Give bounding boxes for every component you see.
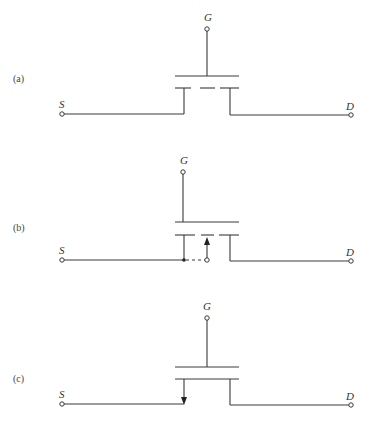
mosfet-symbols-diagram: (a) G S D (b) G S — [0, 0, 369, 421]
gate-label-c: G — [203, 300, 211, 312]
arrow-up-icon — [204, 237, 210, 245]
gate-terminal-b — [181, 170, 185, 174]
gate-label-b: G — [180, 154, 188, 166]
drain-label-b: D — [345, 246, 354, 258]
source-terminal-a — [60, 112, 64, 116]
gate-label-a: G — [204, 11, 212, 23]
panel-label-b: (b) — [13, 222, 25, 234]
panel-c: (c) G S D — [13, 300, 354, 407]
panel-label-c: (c) — [13, 373, 24, 385]
panel-label-a: (a) — [13, 73, 24, 85]
drain-label-c: D — [345, 390, 354, 402]
source-terminal-c — [60, 402, 64, 406]
gate-terminal-a — [205, 27, 209, 31]
source-label-a: S — [59, 98, 65, 110]
junction-dot-b — [182, 258, 186, 262]
drain-label-a: D — [345, 100, 354, 112]
drain-terminal-a — [349, 113, 353, 117]
drain-terminal-c — [349, 403, 353, 407]
panel-a: (a) G S D — [13, 11, 354, 117]
drain-terminal-b — [349, 259, 353, 263]
source-terminal-b — [60, 258, 64, 262]
source-label-b: S — [59, 244, 65, 256]
gate-terminal-c — [205, 316, 209, 320]
panel-b: (b) G S D — [13, 154, 354, 263]
source-label-c: S — [59, 388, 65, 400]
body-terminal-b — [205, 258, 209, 262]
